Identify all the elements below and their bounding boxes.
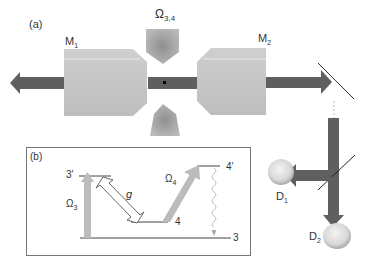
cavity-qed-diagram: (a) M1 M2 Ω3,4 D1 D2 [0,0,368,263]
level-3prime-label: 3′ [66,169,74,180]
pump-beam-top [146,29,179,64]
left-output-beam [10,72,65,94]
coupling-g-label: g [126,188,133,200]
mirror-m1 [64,49,147,116]
mirror-m1-label: M1 [65,35,78,49]
level-4-label: 4 [175,216,181,227]
pump-beam-label: Ω3,4 [155,7,176,23]
detector-d2 [323,223,351,249]
level-4prime-label: 4′ [226,161,234,172]
mirror-m2 [197,48,266,115]
detector-d1-label: D1 [276,190,288,204]
detector-d1 [268,159,294,185]
panel-b-label: (b) [30,151,42,162]
vertical-beam [328,118,339,218]
beam-to-d1 [292,170,332,181]
intracavity-field [148,77,197,89]
atom-marker [163,81,166,84]
panel-b-box [27,148,251,256]
level-3-label: 3 [233,232,239,243]
mirror-m2-label: M2 [258,32,271,46]
panel-a-label: (a) [29,18,42,30]
pump-beam-bottom [150,104,180,136]
right-output-beam [266,70,332,94]
detector-d2-label: D2 [309,230,321,244]
